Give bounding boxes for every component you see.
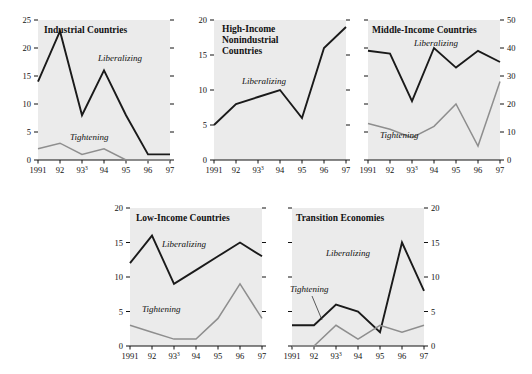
- x-tick-label: 94: [276, 165, 285, 175]
- x-tick-label: 97: [166, 165, 175, 175]
- y-tick-label: 5: [119, 307, 123, 317]
- series-annotation-liberalizing: Liberalizing: [325, 248, 371, 258]
- series-annotation-tightening: Tightening: [142, 304, 181, 314]
- series-annotation-tightening: Tightening: [70, 132, 109, 142]
- y-tick-label: 0: [119, 341, 123, 351]
- x-tick-label: 95: [122, 165, 131, 175]
- x-tick-label: 95: [376, 351, 385, 361]
- x-tick-label: 94: [192, 351, 201, 361]
- series-annotation-tightening: Tightening: [380, 130, 419, 140]
- x-tick-label: 96: [236, 351, 245, 361]
- panel-title: Nonindustrial: [222, 35, 279, 45]
- y-tick-label: 30: [507, 71, 516, 81]
- y-tick-label: 0: [431, 341, 435, 351]
- panel-title: Countries: [222, 46, 262, 56]
- panel-industrial-countries: 051015202519919293394959697Industrial Co…: [14, 6, 182, 184]
- y-tick-label: 20: [115, 203, 124, 213]
- y-tick-label: 25: [23, 15, 32, 25]
- x-tick-label: 95: [214, 351, 223, 361]
- x-tick-label: 933: [76, 165, 88, 175]
- panel-high-income-nonindustrial-countries: 0510152019919293394959697High-IncomeNoni…: [190, 6, 358, 184]
- x-tick-label: 96: [474, 165, 483, 175]
- y-tick-label: 10: [431, 272, 440, 282]
- y-tick-label: 20: [199, 15, 208, 25]
- x-tick-label: 1991: [360, 165, 377, 175]
- x-tick-label: 933: [168, 351, 180, 361]
- panel-title: High-Income: [222, 24, 275, 34]
- x-tick-label: 1991: [284, 351, 301, 361]
- x-tick-label: 97: [420, 351, 429, 361]
- x-tick-label: 95: [452, 165, 461, 175]
- series-annotation-liberalizing: Liberalizing: [161, 239, 207, 249]
- y-tick-label: 10: [507, 127, 516, 137]
- y-tick-label: 15: [115, 238, 124, 248]
- series-annotation-liberalizing: Liberalizing: [97, 53, 143, 63]
- x-tick-label: 97: [258, 351, 267, 361]
- x-tick-label: 94: [430, 165, 439, 175]
- y-tick-label: 20: [23, 43, 32, 53]
- x-tick-label: 97: [496, 165, 505, 175]
- y-tick-label: 40: [507, 43, 516, 53]
- panel-title: Low-Income Countries: [136, 213, 230, 223]
- x-tick-label: 92: [148, 351, 157, 361]
- x-tick-label: 933: [330, 351, 342, 361]
- x-tick-label: 96: [398, 351, 407, 361]
- panel-transition-economies: 0510152019919293394959697Transition Econ…: [282, 194, 460, 370]
- plot-area-background: [130, 208, 262, 346]
- y-tick-label: 15: [199, 50, 208, 60]
- panel-middle-income-countries: 0102030405019919293394959697Middle-Incom…: [358, 6, 532, 184]
- panel-low-income-countries: 0510152019919293394959697Low-Income Coun…: [104, 194, 278, 370]
- x-tick-label: 933: [406, 165, 418, 175]
- series-annotation-liberalizing: Liberalizing: [413, 38, 459, 48]
- x-tick-label: 92: [310, 351, 319, 361]
- y-tick-label: 0: [507, 155, 511, 165]
- y-tick-label: 5: [203, 120, 207, 130]
- x-tick-label: 94: [100, 165, 109, 175]
- x-tick-label: 95: [298, 165, 307, 175]
- x-tick-label: 92: [386, 165, 395, 175]
- y-tick-label: 10: [199, 85, 208, 95]
- x-tick-label: 1991: [30, 165, 47, 175]
- x-tick-label: 97: [342, 165, 351, 175]
- multi-panel-line-chart-figure: 051015202519919293394959697Industrial Co…: [0, 0, 532, 374]
- x-tick-label: 92: [56, 165, 65, 175]
- y-tick-label: 20: [507, 99, 516, 109]
- y-tick-label: 15: [431, 238, 440, 248]
- y-tick-label: 15: [23, 71, 32, 81]
- series-annotation-tightening: Tightening: [290, 284, 329, 294]
- y-tick-label: 10: [115, 272, 124, 282]
- x-tick-label: 96: [144, 165, 153, 175]
- x-tick-label: 92: [232, 165, 241, 175]
- y-tick-label: 10: [23, 99, 32, 109]
- panel-title: Industrial Countries: [44, 25, 127, 35]
- y-tick-label: 5: [431, 307, 435, 317]
- y-tick-label: 0: [203, 155, 207, 165]
- panel-title: Transition Economies: [296, 213, 385, 223]
- x-tick-label: 94: [354, 351, 363, 361]
- series-annotation-liberalizing: Liberalizing: [241, 76, 287, 86]
- y-tick-label: 0: [27, 155, 31, 165]
- x-tick-label: 96: [320, 165, 329, 175]
- x-tick-label: 1991: [122, 351, 139, 361]
- y-tick-label: 5: [27, 127, 31, 137]
- x-tick-label: 1991: [206, 165, 223, 175]
- x-tick-label: 933: [252, 165, 264, 175]
- panel-title: Middle-Income Countries: [372, 25, 477, 35]
- y-tick-label: 20: [431, 203, 440, 213]
- y-tick-label: 50: [507, 15, 516, 25]
